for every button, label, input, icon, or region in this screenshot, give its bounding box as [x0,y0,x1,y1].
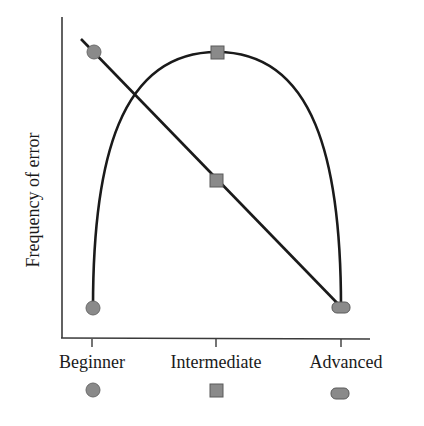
x-label-advanced: Advanced [310,352,383,373]
marker-square-intermediate-mid [210,174,223,187]
marker-circle-beginner-low [86,301,100,315]
marker-circle-beginner-high [87,45,101,59]
series-linear-line [81,39,341,307]
marker-square-intermediate-high [211,46,224,59]
x-axis [61,338,370,339]
x-label-intermediate: Intermediate [171,352,262,373]
marker-pill-advanced-low [332,302,350,313]
chart-container: Frequency of error Beginner Intermediate… [0,0,424,426]
legend-circle-icon [86,383,100,397]
legend-pill-icon [331,388,349,399]
x-label-beginner: Beginner [59,352,125,373]
y-axis-label: Frequency of error [23,133,44,268]
legend-square-icon [210,384,223,397]
